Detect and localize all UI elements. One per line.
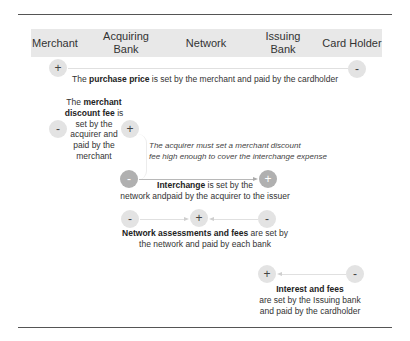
column-label-line2: Bank [113,44,138,55]
network-right-connector [214,219,258,220]
participants-header: Merchant Acquiring Bank Network Issuing … [31,29,382,57]
minus-icon: - [121,210,139,228]
interest-connector [282,274,346,275]
note-bracket [138,134,147,180]
caption-bold: merchant [83,97,121,107]
network-left-connector [140,219,186,220]
purchase-price-caption: The purchase price is set by the merchan… [40,74,370,85]
column-label-line1: Acquiring [103,31,149,42]
caption-line-4: acquirer and [62,129,126,140]
caption-suffix: is set by the merchant and paid by the c… [149,74,338,84]
symbol: + [195,212,202,224]
purchase-price-connector [68,68,348,69]
symbol: + [263,268,270,280]
column-merchant: Merchant [25,29,85,57]
column-card-holder: Card Holder [319,29,385,57]
column-label-line2: Bank [270,44,295,55]
caption-prefix: The [72,74,89,84]
caption-line-1: Interchange is set by the [100,180,310,191]
column-network: Network [171,29,241,57]
caption-line-3: and paid by the cardholder [250,306,370,317]
top-rule [18,14,392,15]
caption-suffix: is [115,108,124,118]
caption-line-2: are set by the Issuing bank [250,295,370,306]
merchant-discount-fee-caption: The merchant discount fee is set by the … [62,97,126,162]
minus-icon: - [258,210,276,228]
note-line-1: The acquirer must set a merchant discoun… [149,140,389,151]
bottom-rule [18,327,392,328]
interchange-caption: Interchange is set by the network andpai… [100,180,310,202]
interest-fees-caption: Interest and fees are set by the Issuing… [250,284,370,317]
caption-line-3: set by the [62,119,126,130]
caption-bold: discount fee [65,108,115,118]
column-label: Card Holder [322,38,381,49]
caption-line-1: Network assessments and fees are set by [100,228,310,239]
caption-bold: Interest and fees [276,284,344,294]
plus-icon: + [190,209,208,227]
caption-line-6: merchant [62,151,126,162]
interchange-note: The acquirer must set a merchant discoun… [149,140,389,162]
plus-icon: + [258,265,276,283]
caption-line-1: The merchant [62,97,126,108]
symbol: + [54,62,61,74]
caption-line-5: paid by the [62,140,126,151]
caption-suffix: are set by [248,228,288,238]
symbol: - [56,123,60,135]
column-label-line1: Issuing [266,31,301,42]
minus-icon: - [346,265,364,283]
caption-prefix: The [66,97,83,107]
column-label: Network [186,38,226,49]
arrow-right-icon [184,217,189,221]
column-acquiring-bank: Acquiring Bank [91,29,161,57]
symbol: - [265,213,269,225]
caption-line-2: the network and paid by each bank [100,239,310,250]
caption-line-1: Interest and fees [250,284,370,295]
network-assessments-caption: Network assessments and fees are set by … [100,228,310,250]
caption-bold: purchase price [89,74,149,84]
column-label: Merchant [32,38,78,49]
note-line-2: fee high enough to cover the interchange… [149,151,389,162]
column-issuing-bank: Issuing Bank [253,29,313,57]
caption-line-2: discount fee is [62,108,126,119]
caption-bold: Network assessments and fees [122,228,248,238]
symbol: - [128,213,132,225]
symbol: + [126,123,133,135]
symbol: - [353,268,357,280]
caption-bold: Interchange [157,180,205,190]
caption-suffix: is set by the [205,180,253,190]
caption-line-2: network andpaid by the acquirer to the i… [100,191,310,202]
